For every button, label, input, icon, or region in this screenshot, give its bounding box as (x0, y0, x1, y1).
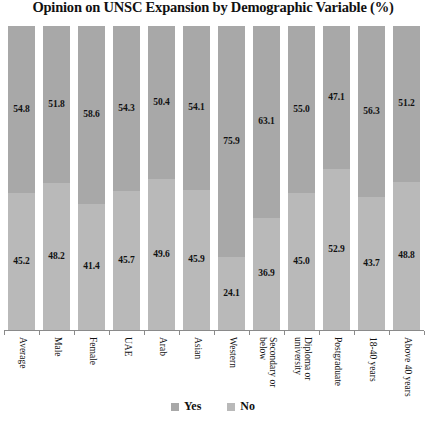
bar-value-label: 45.7 (118, 256, 135, 266)
category-label: Secondary orbelow (257, 337, 276, 387)
bar-column: 54.145.9 (183, 26, 210, 330)
bar-value-label: 48.2 (48, 252, 65, 262)
category-label-cell: Arab (148, 337, 175, 399)
bar-column: 54.345.7 (113, 26, 140, 330)
bar-column: 58.641.4 (78, 26, 105, 330)
category-label: Diploma oruniversity (292, 337, 311, 381)
axis-tick (424, 331, 425, 335)
bar-value-label: 54.8 (13, 105, 30, 115)
bar-segment-yes: 56.3 (358, 26, 385, 197)
category-label: Postgraduate (332, 337, 342, 386)
bar-value-label: 52.9 (328, 245, 345, 255)
axis-tick (319, 331, 320, 335)
x-axis-ticks (4, 331, 424, 335)
legend-label: No (240, 399, 255, 414)
category-label-line: Average (17, 337, 27, 368)
category-label-cell: 18-40 years (358, 337, 385, 399)
category-label-line: Arab (157, 337, 167, 356)
bar-value-label: 36.9 (258, 269, 275, 279)
bar-value-label: 63.1 (258, 117, 275, 127)
bar-value-label: 45.2 (13, 257, 30, 267)
bar-segment-yes: 54.1 (183, 26, 210, 190)
category-label-cell: Asian (183, 337, 210, 399)
bar-segment-no: 24.1 (218, 257, 245, 330)
bar-value-label: 45.0 (293, 257, 310, 267)
bar-segment-no: 45.0 (288, 193, 315, 330)
bar-segment-no: 52.9 (323, 169, 350, 330)
bar-segment-no: 45.7 (113, 191, 140, 330)
chart-title: Opinion on UNSC Expansion by Demographic… (0, 0, 426, 16)
axis-tick (249, 331, 250, 335)
category-label-line: Postgraduate (332, 337, 342, 386)
chart-legend: YesNo (0, 399, 426, 414)
bar-value-label: 51.2 (398, 99, 415, 109)
bar-column: 47.152.9 (323, 26, 350, 330)
axis-tick (354, 331, 355, 335)
bar-column: 51.248.8 (393, 26, 420, 330)
bar-segment-no: 41.4 (78, 204, 105, 330)
stacked-bar-chart: Opinion on UNSC Expansion by Demographic… (0, 0, 426, 424)
bar-segment-yes: 51.2 (393, 26, 420, 182)
bar-value-label: 49.6 (153, 250, 170, 260)
bar-value-label: 41.4 (83, 262, 100, 272)
category-label-cell: Secondary orbelow (253, 337, 280, 399)
axis-tick (144, 331, 145, 335)
legend-item[interactable]: Yes (171, 399, 201, 414)
bar-column: 54.845.2 (8, 26, 35, 330)
category-label: Western (227, 337, 237, 368)
bar-segment-no: 36.9 (253, 218, 280, 330)
bar-segment-yes: 47.1 (323, 26, 350, 169)
category-label-line: Diploma or (302, 337, 312, 381)
bar-value-label: 47.1 (328, 93, 345, 103)
bar-value-label: 45.9 (188, 255, 205, 265)
bar-segment-yes: 54.8 (8, 26, 35, 193)
bar-series-container: 54.845.251.848.258.641.454.345.750.449.6… (8, 26, 420, 330)
bar-segment-yes: 50.4 (148, 26, 175, 179)
bar-segment-yes: 54.3 (113, 26, 140, 191)
axis-tick (389, 331, 390, 335)
bar-segment-no: 45.2 (8, 193, 35, 330)
category-label-line: below (257, 337, 267, 387)
category-label: Average (17, 337, 27, 368)
bar-column: 50.449.6 (148, 26, 175, 330)
bar-value-label: 58.6 (83, 110, 100, 120)
bar-segment-yes: 75.9 (218, 26, 245, 257)
category-label-cell: Diploma oruniversity (288, 337, 315, 399)
category-label-cell: Female (78, 337, 105, 399)
category-label-line: Above 40 years (402, 337, 412, 397)
bar-column: 75.924.1 (218, 26, 245, 330)
category-label-line: Female (87, 337, 97, 365)
axis-tick (179, 331, 180, 335)
bar-value-label: 54.1 (188, 103, 205, 113)
axis-tick (4, 331, 5, 335)
bar-segment-yes: 63.1 (253, 26, 280, 218)
legend-swatch-icon (227, 403, 235, 411)
category-label-cell: Postgraduate (323, 337, 350, 399)
bar-segment-no: 43.7 (358, 197, 385, 330)
bar-value-label: 75.9 (223, 137, 240, 147)
axis-tick (39, 331, 40, 335)
bar-segment-no: 48.8 (393, 182, 420, 330)
bar-segment-no: 49.6 (148, 179, 175, 330)
bar-segment-yes: 58.6 (78, 26, 105, 204)
category-label-line: UAE (122, 337, 132, 357)
category-label: UAE (122, 337, 132, 357)
bar-column: 63.136.9 (253, 26, 280, 330)
category-label-cell: Above 40 years (393, 337, 420, 399)
bar-value-label: 55.0 (293, 105, 310, 115)
category-label: Asian (192, 337, 202, 359)
category-label-line: Western (227, 337, 237, 368)
bar-column: 51.848.2 (43, 26, 70, 330)
category-label-line: Male (52, 337, 62, 357)
legend-swatch-icon (171, 403, 179, 411)
category-label: 18-40 years (367, 337, 377, 382)
bar-value-label: 24.1 (223, 289, 240, 299)
bar-value-label: 50.4 (153, 98, 170, 108)
category-label: Male (52, 337, 62, 357)
legend-item[interactable]: No (227, 399, 255, 414)
axis-tick (214, 331, 215, 335)
category-label-line: university (292, 337, 302, 381)
category-label: Arab (157, 337, 167, 356)
bar-segment-yes: 55.0 (288, 26, 315, 193)
bar-column: 56.343.7 (358, 26, 385, 330)
